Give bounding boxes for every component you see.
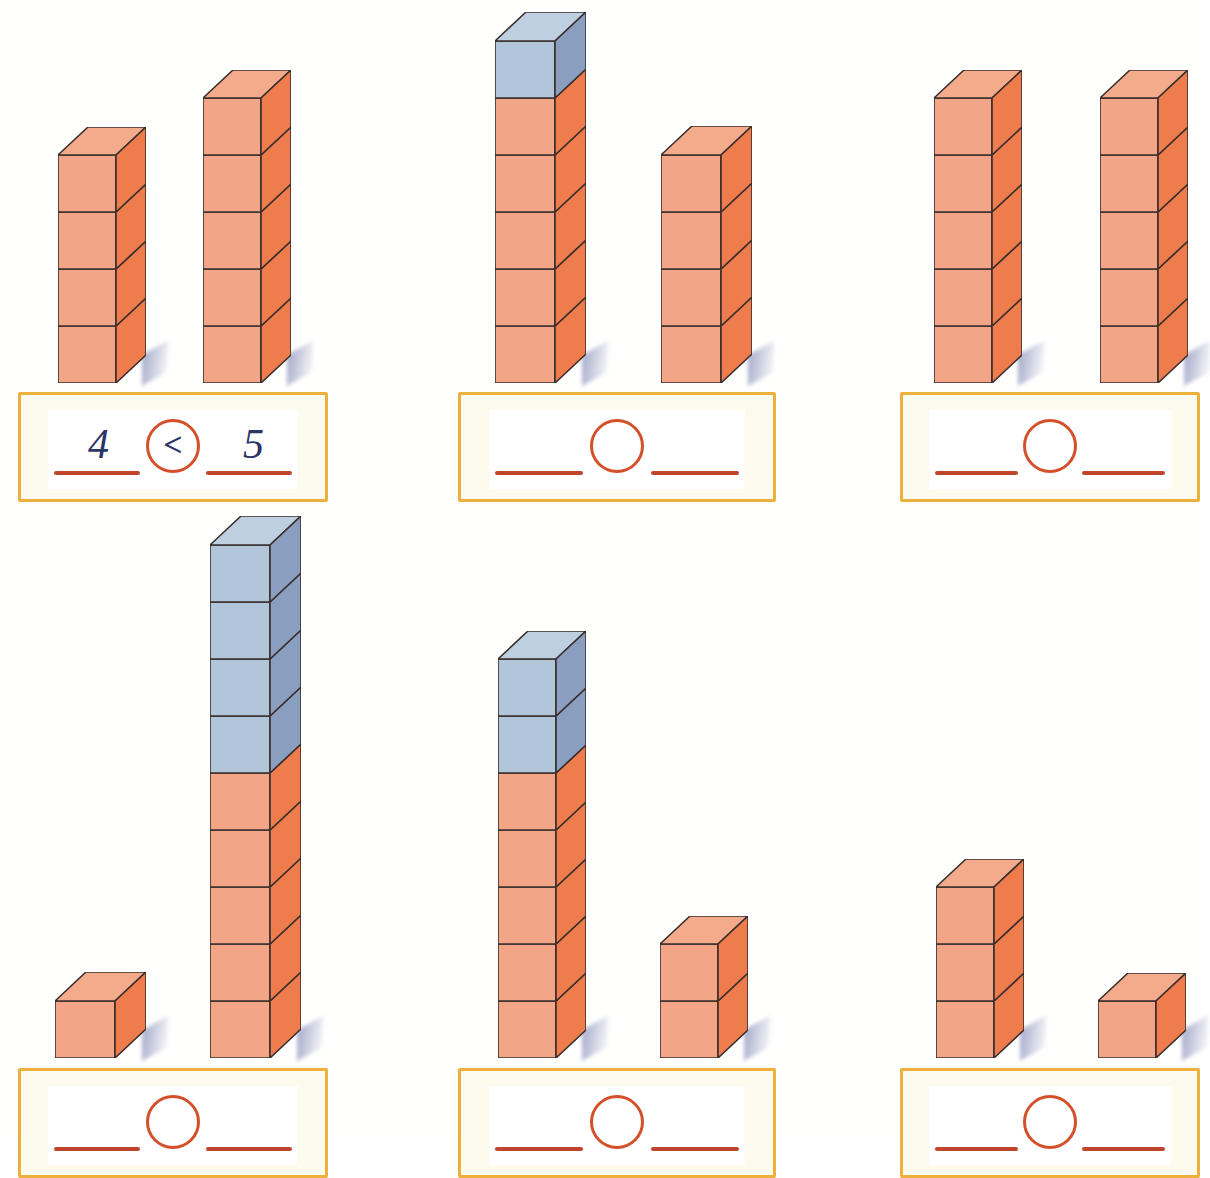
right-answer-blank[interactable] <box>206 1147 291 1151</box>
left-answer-blank[interactable] <box>495 1147 582 1151</box>
right-tower <box>660 916 748 1058</box>
blue-cube <box>210 516 301 602</box>
comparison-operator-circle[interactable] <box>1023 1095 1077 1149</box>
orange-cube <box>55 972 146 1058</box>
right-tower <box>1098 973 1186 1058</box>
orange-cube <box>934 70 1022 155</box>
right-tower <box>661 126 752 383</box>
orange-cube <box>936 859 1024 944</box>
left-tower <box>495 12 586 383</box>
left-answer-blank[interactable] <box>54 1147 139 1151</box>
right-tower <box>203 70 291 383</box>
orange-cube <box>203 70 291 155</box>
left-tower <box>934 70 1022 383</box>
right-tower <box>210 516 301 1058</box>
orange-cube <box>660 916 748 1001</box>
orange-cube <box>1098 973 1186 1058</box>
orange-cube <box>661 126 752 212</box>
right-answer-blank[interactable] <box>651 1147 738 1151</box>
blue-cube <box>495 12 586 98</box>
right-answer-blank[interactable] <box>1082 1147 1164 1151</box>
left-answer-blank[interactable] <box>935 1147 1017 1151</box>
right-tower <box>1100 70 1188 383</box>
orange-cube <box>1100 70 1188 155</box>
orange-cube <box>58 127 146 212</box>
left-tower <box>498 631 586 1058</box>
answer-box[interactable] <box>900 1068 1200 1178</box>
left-tower <box>936 859 1024 1058</box>
left-tower <box>55 972 146 1058</box>
blue-cube <box>498 631 586 716</box>
left-tower <box>58 127 146 383</box>
